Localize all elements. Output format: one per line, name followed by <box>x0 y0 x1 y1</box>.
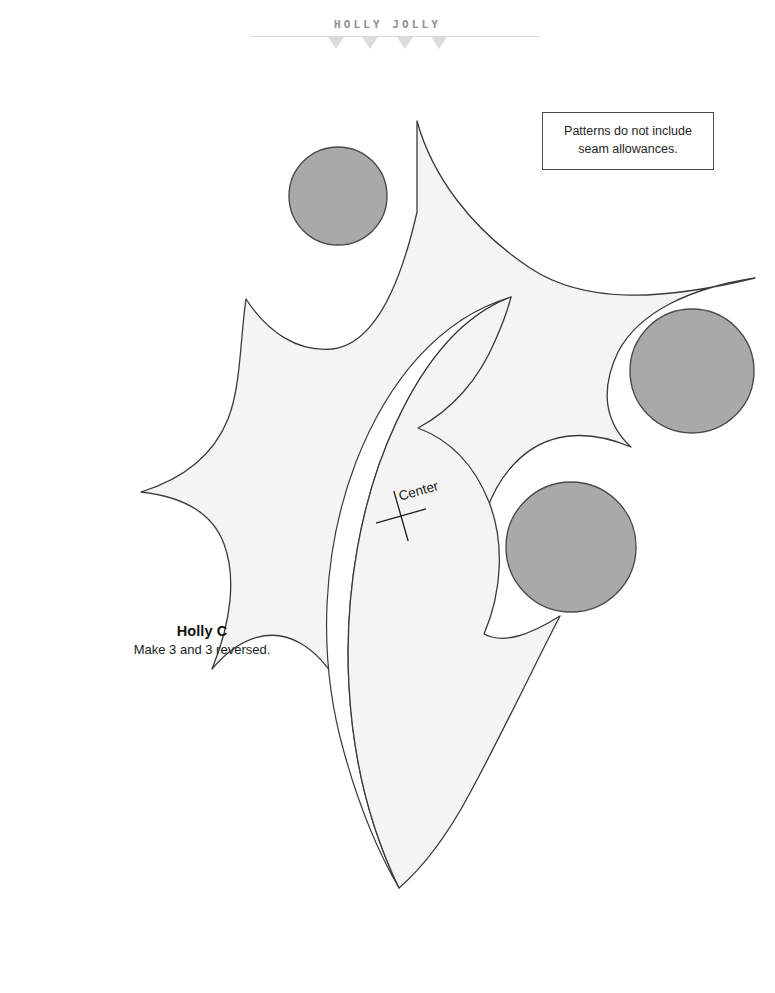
pattern-label-block: Holly C Make 3 and 3 reversed. <box>92 622 312 659</box>
pattern-artwork <box>0 0 775 993</box>
berry-top-left <box>289 147 387 245</box>
pattern-piece-name: Holly C <box>92 622 312 641</box>
berry-bottom-right <box>506 482 636 612</box>
berry-right <box>630 309 754 433</box>
pattern-piece-quantity: Make 3 and 3 reversed. <box>92 642 312 659</box>
